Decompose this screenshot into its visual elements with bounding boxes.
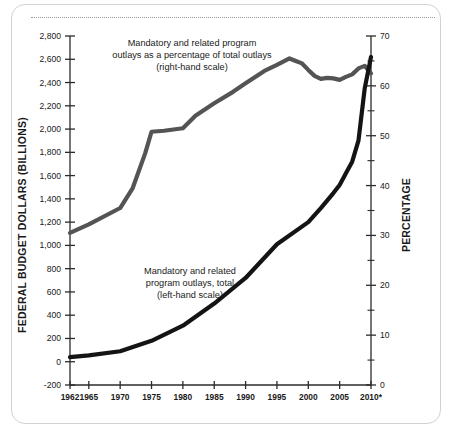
right-tick-label: 0 — [380, 380, 385, 390]
left-tick-label: 1,200 — [39, 217, 61, 227]
annotation-line: program outlays, total — [146, 278, 234, 288]
total-series-line — [70, 57, 371, 357]
left-axis-tick-labels: 2,8002,6002,4002,2002,0001,8001,6001,400… — [39, 31, 61, 390]
x-tick-label: 1995 — [268, 392, 287, 402]
left-tick-label: -200 — [44, 380, 61, 390]
left-tick-label: 1,600 — [39, 171, 61, 181]
x-tick-label: 1985 — [205, 392, 224, 402]
right-tick-label: 50 — [380, 131, 390, 141]
x-tick-label: 2010* — [360, 392, 383, 402]
chart-svg: 2,8002,6002,4002,2002,0001,8001,6001,400… — [0, 0, 453, 435]
left-tick-label: 600 — [47, 287, 62, 297]
left-tick-label: 2,800 — [39, 31, 61, 41]
annotation-line: Mandatory and related program — [128, 38, 257, 48]
left-tick-label: 2,600 — [39, 54, 61, 64]
right-axis-title: PERCENTAGE — [400, 178, 412, 252]
chart-container: 2,8002,6002,4002,2002,0001,8001,6001,400… — [0, 0, 453, 435]
left-tick-label: 2,400 — [39, 78, 61, 88]
right-tick-label: 20 — [380, 280, 390, 290]
x-tick-label: 1975 — [142, 392, 161, 402]
annotation-line: (left-hand scale) — [157, 290, 223, 300]
total-series-annotation: Mandatory and relatedprogram outlays, to… — [144, 266, 236, 300]
x-tick-label: 1980 — [174, 392, 193, 402]
left-tick-label: 400 — [47, 310, 62, 320]
x-tick-label: 1965 — [79, 392, 98, 402]
right-tick-label: 40 — [380, 181, 390, 191]
left-tick-label: 1,800 — [39, 147, 61, 157]
left-tick-label: 800 — [47, 264, 62, 274]
x-tick-label: 1990 — [236, 392, 255, 402]
left-tick-label: 1,400 — [39, 194, 61, 204]
x-tick-label: 2000 — [299, 392, 318, 402]
x-tick-label: 1962 — [61, 392, 80, 402]
left-tick-label: 2,000 — [39, 124, 61, 134]
left-tick-label: 0 — [56, 357, 61, 367]
x-axis-tick-labels: 1962196519701975198019851990199520002005… — [61, 392, 383, 402]
left-axis-title: FEDERAL BUDGET DOLLARS (BILLIONS) — [16, 117, 28, 333]
x-tick-label: 1970 — [111, 392, 130, 402]
left-tick-label: 200 — [47, 333, 62, 343]
annotation-line: Mandatory and related — [144, 266, 236, 276]
left-tick-label: 2,200 — [39, 101, 61, 111]
annotation-line: (right-hand scale) — [156, 62, 228, 72]
right-tick-label: 70 — [380, 31, 390, 41]
right-axis-tick-labels: 706050403020100 — [380, 31, 390, 390]
annotation-line: outlays as a percentage of total outlays — [112, 50, 272, 60]
x-tick-label: 2005 — [330, 392, 349, 402]
percentage-series-line — [70, 58, 371, 233]
right-tick-label: 60 — [380, 81, 390, 91]
right-tick-label: 10 — [380, 330, 390, 340]
left-tick-label: 1,000 — [39, 240, 61, 250]
right-tick-label: 30 — [380, 230, 390, 240]
percentage-series-annotation: Mandatory and related programoutlays as … — [112, 38, 272, 72]
